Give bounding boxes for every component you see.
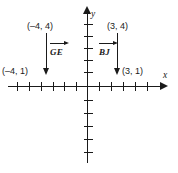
segment-bj-arrowhead-icon: [114, 68, 120, 75]
x-axis-tick: [29, 82, 30, 91]
x-axis-tick: [53, 82, 54, 91]
x-axis-label: x: [163, 70, 167, 80]
x-axis-tick: [17, 82, 18, 91]
y-axis-tick: [84, 100, 93, 101]
x-axis-tick: [147, 82, 148, 91]
y-axis-arrowhead-icon: [83, 6, 91, 14]
x-axis-arrowhead-icon: [160, 82, 168, 90]
x-axis-tick: [135, 82, 136, 91]
point-label-bj-end: (3, 1): [122, 66, 143, 76]
y-axis-tick: [84, 72, 93, 73]
ray-ge-label: GE: [50, 47, 63, 57]
x-axis-tick: [123, 82, 124, 91]
point-label-ge-start: (–4, 4): [27, 21, 53, 31]
point-label-ge-end: (–4, 1): [2, 66, 28, 76]
ray-ge-overbar: [50, 43, 65, 44]
segment-ge-line: [46, 33, 47, 70]
y-axis-tick: [84, 24, 93, 25]
x-axis-tick: [76, 82, 77, 91]
x-axis-line: [8, 86, 162, 87]
x-axis-tick: [99, 82, 100, 91]
ray-bj-overbar: [99, 43, 114, 44]
ray-bj-overbar-arrowhead-icon: [113, 41, 118, 45]
point-label-bj-start: (3, 4): [107, 21, 128, 31]
ray-ge-overbar-arrowhead-icon: [64, 41, 69, 45]
y-axis-tick: [84, 60, 93, 61]
ray-bj-label: BJ: [99, 47, 110, 57]
segment-ge-arrowhead-icon: [43, 68, 49, 75]
y-axis-tick: [84, 139, 93, 140]
y-axis-tick: [84, 126, 93, 127]
x-axis-tick: [64, 82, 65, 91]
y-axis-tick: [84, 152, 93, 153]
y-axis-label: y: [91, 9, 95, 19]
y-axis-tick: [84, 113, 93, 114]
segment-bj-line: [117, 33, 118, 70]
y-axis-tick: [84, 36, 93, 37]
coordinate-plane-diagram: x y (–4, 4) (–4, 1) GE (3, 4) (3, 1) BJ: [0, 0, 178, 173]
y-axis-tick: [84, 48, 93, 49]
x-axis-tick: [111, 82, 112, 91]
x-axis-tick: [41, 82, 42, 91]
